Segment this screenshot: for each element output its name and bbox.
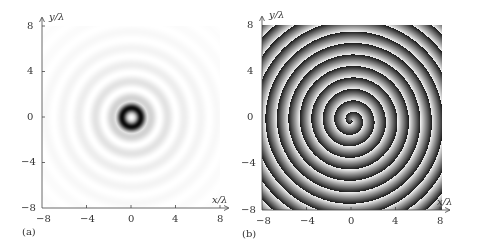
xlabel-b: x/λ bbox=[437, 197, 452, 207]
ytick-a-m4: −4 bbox=[21, 157, 36, 167]
xtick-b-m4: −4 bbox=[300, 216, 315, 226]
xtick-b-m8: −8 bbox=[256, 216, 271, 226]
xtick-a-8: 8 bbox=[217, 214, 223, 224]
ytick-b-m4: −4 bbox=[241, 158, 256, 168]
ytick-a-8: 8 bbox=[27, 21, 33, 31]
ytick-b-m8: −8 bbox=[241, 205, 256, 215]
xtick-a-0: 0 bbox=[128, 214, 134, 224]
panel-label-a: (a) bbox=[22, 227, 36, 237]
xtick-a-4: 4 bbox=[172, 214, 178, 224]
xlabel-a: x/λ bbox=[212, 195, 227, 205]
xtick-b-8: 8 bbox=[437, 216, 443, 226]
panel-label-b: (b) bbox=[242, 229, 256, 239]
xtick-b-4: 4 bbox=[392, 216, 398, 226]
xtick-a-m8: −8 bbox=[36, 214, 51, 224]
xtick-a-m4: −4 bbox=[80, 214, 95, 224]
axes-lines bbox=[0, 0, 477, 249]
ytick-b-0: 0 bbox=[247, 112, 253, 122]
ytick-a-0: 0 bbox=[27, 112, 33, 122]
ytick-b-8: 8 bbox=[247, 20, 253, 30]
ytick-a-4: 4 bbox=[27, 66, 33, 76]
xtick-b-0: 0 bbox=[348, 216, 354, 226]
ylabel-a: y/λ bbox=[49, 12, 64, 22]
ylabel-b: y/λ bbox=[269, 10, 284, 20]
figure: y/λ x/λ 8 4 0 −4 −8 −8 −4 0 4 8 (a) y/λ … bbox=[0, 0, 477, 249]
ytick-b-4: 4 bbox=[247, 66, 253, 76]
ytick-a-m8: −8 bbox=[21, 203, 36, 213]
